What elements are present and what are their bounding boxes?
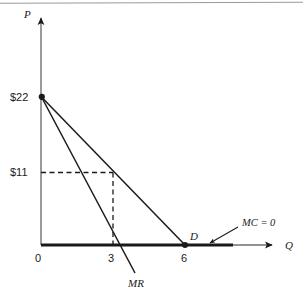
x-tick-6: 6 xyxy=(181,252,187,264)
y-axis-label: P xyxy=(23,8,31,20)
demand-x-intercept-marker xyxy=(182,242,188,248)
price-label-22: $22 xyxy=(10,91,28,103)
price-quantity-guides xyxy=(41,173,113,246)
marginal-cost-curve-label: MC = 0 xyxy=(241,217,276,228)
marginal-revenue-curve-label: MR xyxy=(127,277,144,289)
demand-curve xyxy=(42,97,186,245)
x-tick-0: 0 xyxy=(35,252,41,264)
x-tick-3: 3 xyxy=(108,252,114,264)
price-intercept-marker xyxy=(39,94,45,100)
mc-annotation-leader xyxy=(210,227,238,243)
monopoly-diagram-figure: P Q $22 $11 0 3 6 D MR MC = 0 xyxy=(0,0,303,299)
diagram-canvas: P Q $22 $11 0 3 6 D MR MC = 0 xyxy=(0,0,303,299)
x-axis-label: Q xyxy=(285,239,293,251)
page-top-rule xyxy=(0,2,303,3)
marginal-revenue-curve xyxy=(42,97,136,273)
price-label-11: $11 xyxy=(10,166,28,178)
demand-curve-label: D xyxy=(189,230,198,242)
